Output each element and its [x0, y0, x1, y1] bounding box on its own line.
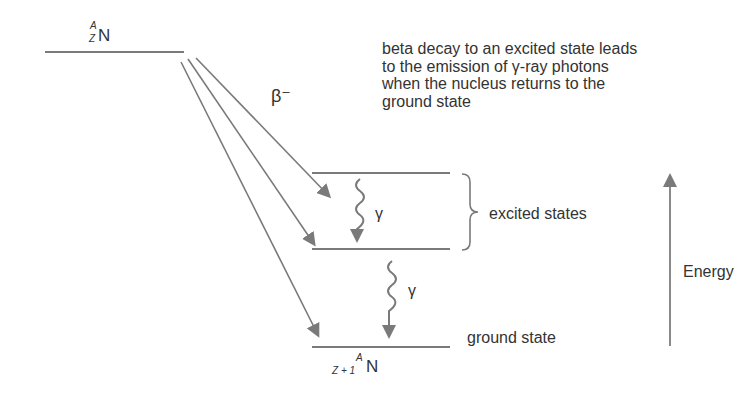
excited-states-brace	[462, 174, 478, 250]
daughter-nuclide-label: A Z + 1 N	[330, 350, 390, 380]
beta-arrow-to-excited-1	[196, 58, 329, 196]
beta-arrow-to-excited-2	[188, 59, 314, 244]
ground-state-label: ground state	[467, 329, 556, 347]
parent-atomic-number: Z	[89, 33, 95, 44]
beta-arrow-to-ground	[181, 62, 318, 335]
parent-nuclide-label: A Z N	[86, 20, 126, 50]
beta-minus-label: β⁻	[271, 88, 291, 106]
gamma-label-2: γ	[408, 282, 416, 300]
excited-states-label: excited states	[489, 205, 587, 223]
daughter-symbol: N	[366, 357, 378, 377]
caption-line-1: beta decay to an excited state leads	[382, 40, 637, 58]
daughter-mass-number: A	[356, 352, 363, 363]
caption-line-2: to the emission of γ-ray photons	[382, 58, 637, 76]
gamma-wave-icon-1	[356, 179, 364, 240]
caption-text: beta decay to an excited state leads to …	[382, 40, 637, 110]
caption-line-4: ground state	[382, 93, 637, 111]
parent-symbol: N	[98, 26, 110, 46]
parent-mass-number: A	[90, 20, 97, 31]
caption-line-3: when the nucleus returns to the	[382, 75, 637, 93]
gamma-wave-icon-2	[388, 261, 396, 336]
energy-level-diagram	[0, 0, 754, 401]
gamma-label-1: γ	[375, 205, 383, 223]
daughter-atomic-number: Z + 1	[332, 365, 355, 376]
energy-axis-label: Energy	[683, 263, 734, 281]
